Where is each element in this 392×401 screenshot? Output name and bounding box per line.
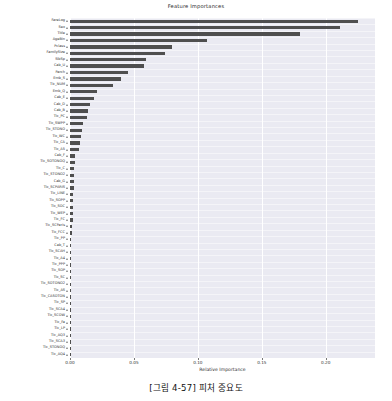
gridline-horizontal: [70, 146, 375, 147]
y-tick-label: Emb_Q: [53, 90, 65, 94]
y-tick-mark: [66, 156, 68, 157]
y-tick-label: Tic_STONO: [46, 129, 65, 133]
y-tick-label: Tic_C: [56, 167, 65, 171]
gridline-horizontal: [70, 159, 375, 160]
y-tick-mark: [66, 258, 68, 259]
y-tick-mark: [66, 72, 68, 73]
y-tick-label: Tic_LP: [54, 327, 65, 331]
figure-container: Feature Importances FareLogSexTitleAgeBi…: [0, 0, 392, 401]
y-tick-mark: [66, 303, 68, 304]
y-tick-label: Tic_PC: [54, 116, 65, 120]
bar: [70, 289, 71, 292]
y-tick-label: Sex: [59, 26, 65, 30]
bar: [70, 251, 71, 254]
gridline-horizontal: [70, 275, 375, 276]
gridline-horizontal: [70, 166, 375, 167]
gridline-horizontal: [70, 281, 375, 282]
gridline-horizontal: [70, 31, 375, 32]
y-tick-label: Tic_SCA3: [49, 340, 65, 344]
y-tick-mark: [66, 175, 68, 176]
y-tick-label: Emb_S: [53, 77, 65, 81]
y-tick-mark: [66, 91, 68, 92]
bar: [70, 64, 144, 67]
y-tick-label: Tic_AQ3: [51, 334, 65, 338]
gridline-horizontal: [70, 307, 375, 308]
gridline-horizontal: [70, 204, 375, 205]
bar: [70, 199, 73, 202]
y-tick-label: Cab_E: [54, 96, 65, 100]
y-tick-label: Tic_AQ4: [51, 353, 65, 357]
y-tick-mark: [66, 53, 68, 54]
bar: [70, 180, 74, 183]
gridline-horizontal: [70, 101, 375, 102]
bar: [70, 327, 71, 330]
bar: [70, 71, 128, 74]
chart-title: Feature Importances: [0, 3, 392, 9]
y-tick-mark: [66, 79, 68, 80]
y-tick-mark: [66, 252, 68, 253]
bar: [70, 244, 71, 247]
x-tick-label: 0.20: [321, 360, 330, 365]
y-tick-label: Cab_G: [54, 180, 65, 184]
gridline-vertical: [262, 18, 263, 358]
y-tick-mark: [66, 226, 68, 227]
y-tick-label: Tic_LINE: [51, 193, 66, 197]
y-tick-label: Tic_SCAH: [49, 250, 65, 254]
bar: [70, 97, 94, 100]
gridline-horizontal: [70, 76, 375, 77]
y-tick-label: Tic_CA: [53, 141, 65, 145]
bar: [70, 161, 75, 164]
gridline-horizontal: [70, 95, 375, 96]
y-tick-mark: [66, 290, 68, 291]
bar: [70, 308, 71, 311]
y-tick-mark: [66, 329, 68, 330]
bar: [70, 148, 79, 151]
y-tick-mark: [66, 104, 68, 105]
y-tick-label: Tic_AS: [54, 289, 65, 293]
y-tick-mark: [66, 239, 68, 240]
gridline-horizontal: [70, 300, 375, 301]
y-tick-label: Tic_WEP: [51, 212, 65, 216]
y-tick-mark: [66, 207, 68, 208]
y-tick-mark: [66, 194, 68, 195]
y-tick-label: FareLog: [51, 19, 65, 23]
gridline-horizontal: [70, 262, 375, 263]
bar: [70, 315, 71, 318]
y-tick-label: Tic_SCA4: [49, 308, 65, 312]
bar: [70, 58, 146, 61]
gridline-horizontal: [70, 153, 375, 154]
y-tick-label: Tic_SP: [54, 302, 65, 306]
y-tick-label: Cab_F: [54, 154, 65, 158]
y-tick-label: Tic_FCC: [51, 231, 65, 235]
bar: [70, 186, 74, 189]
bar: [70, 174, 74, 177]
y-tick-mark: [66, 59, 68, 60]
gridline-horizontal: [70, 287, 375, 288]
bar: [70, 154, 75, 157]
bar: [70, 321, 71, 324]
y-tick-mark: [66, 201, 68, 202]
y-tick-mark: [66, 297, 68, 298]
gridline-horizontal: [70, 217, 375, 218]
gridline-horizontal: [70, 352, 375, 353]
bar: [70, 52, 165, 55]
x-tick-label: 0.15: [257, 360, 266, 365]
bar: [70, 302, 71, 305]
y-axis-tick-labels: FareLogSexTitleAgeBinPclassFamilySizeSib…: [0, 18, 68, 358]
y-tick-label: Tic_SCParis: [45, 225, 65, 229]
gridline-horizontal: [70, 230, 375, 231]
gridline-horizontal: [70, 339, 375, 340]
gridline-horizontal: [70, 185, 375, 186]
y-tick-mark: [66, 130, 68, 131]
gridline-horizontal: [70, 89, 375, 90]
gridline-horizontal: [70, 236, 375, 237]
y-tick-mark: [66, 124, 68, 125]
gridline-horizontal: [70, 114, 375, 115]
bar: [70, 26, 340, 29]
gridline-horizontal: [70, 133, 375, 134]
gridline-vertical: [326, 18, 327, 358]
bar: [70, 122, 83, 125]
y-tick-label: Cab_B: [54, 109, 65, 113]
y-tick-label: Tic_FC: [54, 218, 65, 222]
gridline-horizontal: [70, 320, 375, 321]
